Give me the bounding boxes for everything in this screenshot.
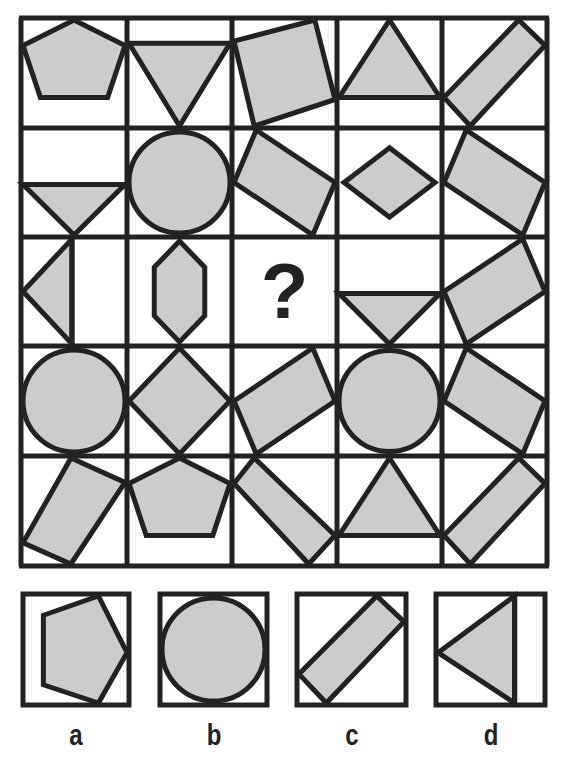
- grid-cell-r0c2: [234, 20, 335, 126]
- cell-r2c4-rectangle-icon: [444, 239, 545, 344]
- cell-r2c3-triangle-icon: [339, 294, 440, 344]
- option-label-d[interactable]: d: [475, 718, 507, 752]
- grid-cell-r4c1: [129, 458, 230, 535]
- grid-cell-r3c3: [339, 351, 440, 452]
- grid-cell-r4c4: [444, 458, 545, 564]
- cell-r4c2-bar-icon: [234, 458, 335, 564]
- puzzle-canvas: ?: [0, 0, 569, 767]
- option-b-circle-icon: [162, 598, 265, 701]
- option-label-a[interactable]: a: [60, 718, 92, 752]
- option-c-bar-icon: [299, 596, 404, 703]
- cell-r0c3-triangle-icon: [339, 20, 440, 97]
- grid-cell-r4c2: [234, 458, 335, 564]
- grid-cell-r2c1: [154, 241, 205, 342]
- option-c[interactable]: [297, 594, 406, 705]
- cell-r0c2-square-icon: [234, 20, 335, 126]
- grid-cell-r2c2: ?: [261, 247, 309, 335]
- grid-cell-r4c3: [339, 458, 440, 535]
- option-a[interactable]: [23, 594, 129, 705]
- cell-r0c4-bar-icon: [444, 20, 545, 126]
- grid-cell-r0c4: [444, 20, 545, 126]
- grid-cell-r3c0: [23, 350, 125, 452]
- grid-cell-r1c4: [444, 130, 545, 235]
- cell-r4c4-bar-icon: [444, 458, 545, 564]
- cell-r2c1-hexagon-icon: [154, 241, 205, 342]
- grid-cell-r0c1: [129, 43, 230, 126]
- option-b[interactable]: [160, 594, 267, 705]
- grid-cell-r0c3: [339, 20, 440, 97]
- grid-cell-r2c0: [23, 239, 72, 344]
- cell-r1c0-triangle-icon: [23, 185, 125, 235]
- cell-r4c3-triangle-icon: [339, 458, 440, 535]
- grid-cell-r1c2: [234, 130, 335, 235]
- grid-cell-r2c3: [339, 294, 440, 344]
- question-mark: ?: [261, 247, 309, 335]
- cell-r4c0-rectangle-icon: [23, 458, 125, 564]
- cell-r3c0-circle-icon: [23, 350, 125, 452]
- grid-cell-r1c1: [129, 132, 230, 233]
- cell-r2c0-triangle-icon: [23, 239, 72, 344]
- cell-r1c2-rectangle-icon: [234, 130, 335, 235]
- cell-r4c1-pentagon-icon: [129, 458, 230, 535]
- cell-r1c1-circle-icon: [129, 132, 230, 233]
- cell-r3c3-circle-icon: [339, 351, 440, 452]
- grid-cell-r4c0: [23, 458, 125, 564]
- grid-cell-r3c4: [444, 348, 545, 454]
- option-label-c[interactable]: c: [336, 718, 368, 752]
- cell-r3c4-rectangle-icon: [444, 348, 545, 454]
- cell-r3c2-rectangle-icon: [234, 348, 335, 454]
- grid-cell-r1c0: [23, 185, 125, 235]
- answer-options: [23, 594, 545, 705]
- cell-r3c1-diamond-icon: [129, 348, 230, 454]
- grid-cell-r2c4: [444, 239, 545, 344]
- cell-r0c0-pentagon-icon: [23, 20, 125, 97]
- grid-cell-r1c3: [344, 148, 435, 217]
- option-d[interactable]: [436, 594, 545, 705]
- cell-r1c4-rectangle-icon: [444, 130, 545, 235]
- option-a-pentagon-icon: [43, 596, 127, 703]
- grid-cell-r3c2: [234, 348, 335, 454]
- option-label-b[interactable]: b: [198, 718, 230, 752]
- grid-cell-r3c1: [129, 348, 230, 454]
- cell-r1c3-diamond-icon: [344, 148, 435, 217]
- option-d-triangle-icon: [438, 596, 515, 703]
- grid-shapes: ?: [23, 20, 545, 564]
- grid-cell-r0c0: [23, 20, 125, 97]
- cell-r0c1-triangle-icon: [129, 43, 230, 126]
